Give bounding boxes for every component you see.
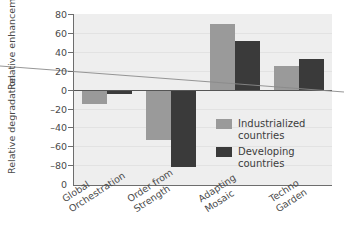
legend-label-industrialized: Industrialized countries — [238, 118, 305, 141]
y-tick-mark — [68, 52, 73, 53]
bar-industrialized-techno-garden — [274, 66, 299, 90]
y-tick-label: 0 — [35, 180, 67, 189]
legend-item-developing: Developing countries — [216, 146, 305, 169]
legend-swatch-icon — [216, 119, 232, 129]
bar-developing-techno-garden — [299, 59, 324, 89]
bar-chart: 80 60 40 20 0 –20 –40 –60 –80 0 Relative… — [0, 0, 344, 238]
legend-label-line2: countries — [238, 130, 284, 141]
legend-label-developing: Developing countries — [238, 146, 295, 169]
y-tick-label: 0 — [35, 86, 67, 95]
y-tick-label: 40 — [35, 48, 67, 57]
y-tick-mark — [68, 146, 73, 147]
y-tick-mark — [68, 33, 73, 34]
gridline — [74, 33, 332, 34]
legend-swatch-icon — [216, 147, 232, 157]
y-tick-label: 20 — [35, 67, 67, 76]
bar-developing-adapting-mosaic — [235, 41, 260, 90]
y-tick-label: 60 — [35, 29, 67, 38]
bar-developing-global-orchestration — [107, 91, 132, 95]
bar-industrialized-order-from-strength — [146, 91, 171, 140]
legend-label-line2: countries — [238, 158, 284, 169]
y-tick-mark — [68, 14, 73, 15]
bar-industrialized-adapting-mosaic — [210, 24, 235, 90]
legend-item-industrialized: Industrialized countries — [216, 118, 305, 141]
legend-label-line1: Industrialized — [238, 118, 305, 129]
y-tick-label: –80 — [35, 161, 67, 170]
legend: Industrialized countries Developing coun… — [216, 118, 305, 174]
y-tick-label: 80 — [35, 10, 67, 19]
y-axis-line — [73, 14, 74, 186]
bar-developing-order-from-strength — [171, 91, 196, 168]
y-tick-mark — [68, 109, 73, 110]
gridline — [74, 52, 332, 53]
y-axis-title-lower: Relative degradation — [6, 104, 17, 174]
y-tick-mark — [68, 71, 73, 72]
y-tick-label: –40 — [35, 123, 67, 132]
gridline — [74, 109, 332, 110]
y-tick-mark — [68, 165, 73, 166]
y-tick-mark — [68, 127, 73, 128]
y-tick-mark — [68, 90, 73, 91]
y-tick-label: –20 — [35, 105, 67, 114]
legend-label-line1: Developing — [238, 146, 295, 157]
y-tick-label: –60 — [35, 142, 67, 151]
bar-industrialized-global-orchestration — [82, 91, 107, 104]
